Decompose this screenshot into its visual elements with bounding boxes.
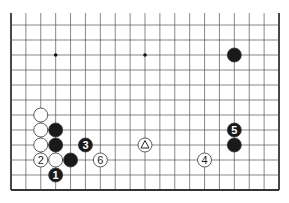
black-stone: 3 [78,138,92,152]
black-stone: 5 [227,123,241,137]
white-stone [49,153,63,167]
white-stone: 6 [93,153,107,167]
black-stone: 1 [49,168,63,182]
move-number: 1 [53,169,59,181]
black-stone [227,48,241,62]
black-stone [227,138,241,152]
move-number: 5 [231,124,237,136]
star-point [54,53,58,57]
white-stone [34,123,48,137]
white-stone: 2 [34,153,48,167]
white-stone [34,108,48,122]
go-board: 326415 [0,0,289,203]
move-number: 4 [201,154,207,166]
white-stone [138,138,152,152]
black-stone [49,123,63,137]
move-number: 2 [38,154,44,166]
star-point [143,53,147,57]
black-stone [64,153,78,167]
white-stone [34,138,48,152]
move-number: 6 [97,154,103,166]
black-stone [49,138,63,152]
white-stone: 4 [198,153,212,167]
move-number: 3 [82,139,88,151]
